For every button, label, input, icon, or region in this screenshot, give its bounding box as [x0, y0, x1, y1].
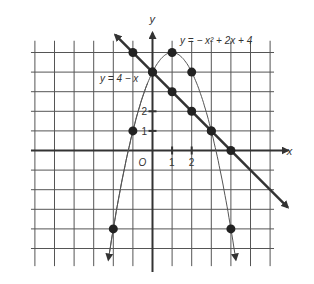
x-tick-label: 1	[169, 157, 175, 168]
line-right-arrow	[211, 131, 287, 207]
parabola-point	[207, 126, 216, 135]
y-axis-label: y	[149, 13, 157, 25]
parabola-equation-label: y = − x² + 2x + 4	[179, 35, 253, 46]
x-tick-label: 2	[189, 157, 195, 168]
line-point	[128, 48, 137, 57]
line-equation-label: y = 4 − x	[99, 73, 139, 84]
parabola-point	[148, 68, 157, 77]
axes	[31, 33, 288, 272]
line-point	[187, 107, 196, 116]
y-tick-label: 1	[142, 126, 148, 137]
parabola-point	[128, 126, 137, 135]
graph: xyO1212y = 4 − xy = − x² + 2x + 4	[0, 0, 314, 284]
parabola-point	[109, 224, 118, 233]
labels: xyO1212y = 4 − xy = − x² + 2x + 4	[99, 13, 293, 167]
parabola-point	[226, 224, 235, 233]
origin-label: O	[139, 157, 147, 168]
parabola-point	[187, 68, 196, 77]
y-tick-label: 2	[142, 106, 148, 117]
line-point	[226, 146, 235, 155]
parabola-point	[168, 48, 177, 57]
curves	[108, 35, 287, 260]
x-axis-label: x	[286, 145, 293, 157]
line-point	[168, 87, 177, 96]
